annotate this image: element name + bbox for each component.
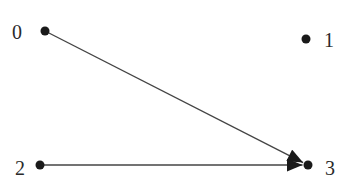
- node-1: [302, 35, 311, 44]
- node-0: [41, 27, 50, 36]
- node-label-3: 3: [325, 158, 335, 178]
- node-2: [36, 161, 45, 170]
- node-label-1: 1: [324, 30, 334, 50]
- node-label-0: 0: [12, 22, 22, 42]
- graph-canvas: [0, 0, 350, 184]
- edge-0-to-3: [45, 31, 303, 163]
- node-label-2: 2: [15, 158, 25, 178]
- edges-layer: [40, 31, 303, 165]
- node-3: [304, 161, 313, 170]
